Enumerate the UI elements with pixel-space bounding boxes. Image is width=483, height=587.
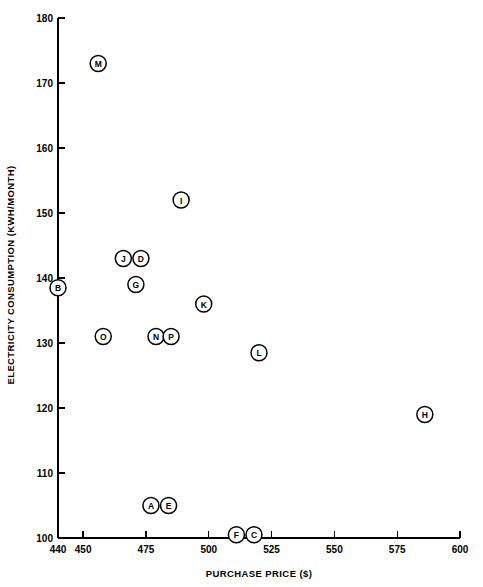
data-point-g[interactable]: G <box>128 277 144 293</box>
scatter-plot-figure: 100110120130140150160170180 440450475500… <box>0 0 483 587</box>
data-point-label: L <box>256 348 261 358</box>
chart-canvas: 100110120130140150160170180 440450475500… <box>0 0 483 587</box>
x-tick-label: 525 <box>263 544 280 555</box>
data-point-label: C <box>251 530 257 540</box>
data-point-d[interactable]: D <box>133 251 149 267</box>
y-axis-title: ELECTRICITY CONSUMPTION (KWH/MONTH) <box>5 165 16 384</box>
data-point-c[interactable]: C <box>246 527 262 543</box>
data-point-label: E <box>166 501 172 511</box>
data-point-f[interactable]: F <box>228 527 244 543</box>
x-axis-title: PURCHASE PRICE ($) <box>206 568 312 579</box>
y-tick-label: 170 <box>36 78 53 89</box>
data-point-label: A <box>148 501 154 511</box>
x-tick-label: 550 <box>326 544 343 555</box>
y-tick-label: 110 <box>37 468 54 479</box>
y-axis: 100110120130140150160170180 <box>36 13 65 544</box>
data-point-label: M <box>95 59 102 69</box>
data-point-i[interactable]: I <box>173 192 189 208</box>
data-point-label: F <box>234 530 239 540</box>
data-point-label: J <box>121 254 126 264</box>
y-tick-label: 130 <box>36 338 53 349</box>
y-tick-label: 150 <box>36 208 53 219</box>
x-tick-label: 575 <box>389 544 406 555</box>
data-point-label: K <box>201 300 208 310</box>
data-point-n[interactable]: N <box>148 329 164 345</box>
data-point-label: B <box>55 283 61 293</box>
data-point-layer: ABCDEFGHIJKLMNOP <box>50 56 433 543</box>
data-point-m[interactable]: M <box>90 56 106 72</box>
data-point-l[interactable]: L <box>251 345 267 361</box>
data-point-a[interactable]: A <box>143 498 159 514</box>
data-point-o[interactable]: O <box>95 329 111 345</box>
y-tick-label: 120 <box>36 403 53 414</box>
y-axis-ticks: 100110120130140150160170180 <box>36 13 65 544</box>
data-point-k[interactable]: K <box>196 296 212 312</box>
data-point-label: H <box>422 410 428 420</box>
y-tick-label: 140 <box>36 273 53 284</box>
data-point-label: G <box>133 280 140 290</box>
x-tick-label: 600 <box>452 544 469 555</box>
data-point-label: I <box>180 196 182 206</box>
data-point-e[interactable]: E <box>161 498 177 514</box>
data-point-j[interactable]: J <box>115 251 131 267</box>
data-point-label: O <box>100 332 107 342</box>
data-point-label: N <box>153 332 159 342</box>
data-point-b[interactable]: B <box>50 280 66 296</box>
data-point-label: D <box>138 254 144 264</box>
x-tick-label: 475 <box>138 544 155 555</box>
y-tick-label: 100 <box>36 533 53 544</box>
x-tick-label: 500 <box>200 544 217 555</box>
data-point-label: P <box>168 332 174 342</box>
y-tick-label: 160 <box>36 143 53 154</box>
x-tick-label: 440 <box>50 544 67 555</box>
y-tick-label: 180 <box>36 13 53 24</box>
x-tick-label: 450 <box>75 544 92 555</box>
data-point-h[interactable]: H <box>417 407 433 423</box>
data-point-p[interactable]: P <box>163 329 179 345</box>
